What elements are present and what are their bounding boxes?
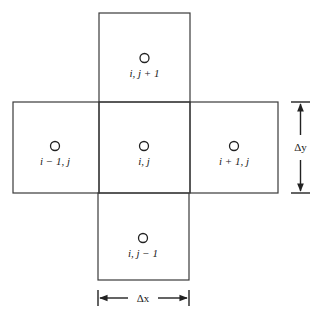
- label-center: i, j: [138, 155, 150, 167]
- dimension-dx-label: Δx: [137, 292, 150, 304]
- dimension-dy-label: Δy: [294, 141, 307, 153]
- dimension-dy: Δy: [291, 102, 310, 193]
- cell-north: i, j + 1: [99, 13, 190, 102]
- label-west: i − 1, j: [40, 155, 70, 167]
- cell-east: i + 1, j: [190, 102, 278, 193]
- node-east-icon: [230, 142, 239, 151]
- label-east: i + 1, j: [219, 155, 249, 167]
- label-south: i, j − 1: [128, 247, 158, 259]
- dimension-dx: Δx: [98, 290, 189, 306]
- stencil-diagram: i, j + 1 i − 1, j i, j i + 1, j i, j − 1…: [0, 0, 323, 319]
- cell-west: i − 1, j: [13, 102, 99, 193]
- cell-south: i, j − 1: [98, 193, 189, 280]
- node-center-icon: [140, 142, 149, 151]
- node-west-icon: [51, 142, 60, 151]
- node-south-icon: [139, 234, 148, 243]
- node-north-icon: [140, 54, 149, 63]
- label-north: i, j + 1: [129, 67, 159, 79]
- cell-center: i, j: [99, 102, 190, 193]
